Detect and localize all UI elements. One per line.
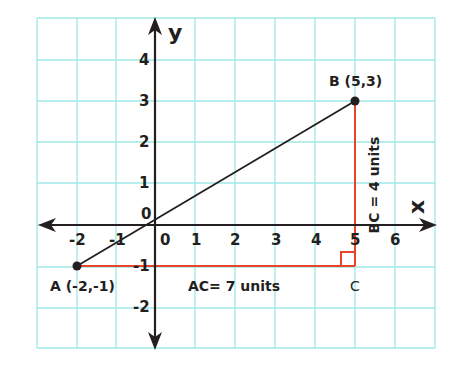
y-axis-label: y	[168, 22, 182, 44]
x-tick: 2	[230, 233, 240, 248]
point-b-label: B (5,3)	[329, 74, 382, 88]
x-tick: 4	[311, 233, 321, 248]
x-axis-label: x	[406, 200, 428, 214]
x-tick: -1	[109, 233, 126, 248]
y-tick: -1	[133, 259, 150, 274]
x-tick: 6	[390, 233, 400, 248]
origin-label: 0	[141, 207, 151, 222]
coordinate-plane	[0, 0, 456, 365]
x-tick: 0	[160, 233, 170, 248]
point-b	[351, 97, 360, 106]
y-tick: 3	[139, 94, 149, 109]
segment-ac-label: AC= 7 units	[188, 279, 280, 293]
x-tick: 1	[191, 233, 201, 248]
x-tick: 5	[350, 233, 360, 248]
y-tick: 4	[139, 53, 149, 68]
point-c-label: C	[350, 279, 360, 293]
point-a-label: A (-2,-1)	[50, 279, 115, 293]
y-tick: 1	[139, 176, 149, 191]
y-tick: 2	[139, 135, 149, 150]
point-a	[73, 262, 82, 271]
y-tick: -2	[133, 300, 150, 315]
x-tick: -2	[69, 233, 86, 248]
x-tick: 3	[271, 233, 281, 248]
segment-bc-label: BC = 4 units	[367, 137, 381, 234]
right-angle-marker	[341, 252, 355, 266]
